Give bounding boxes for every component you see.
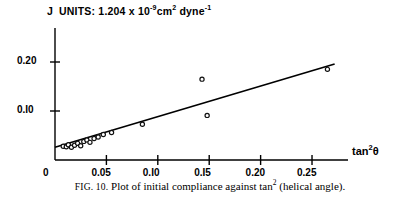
data-point-12 [101, 132, 105, 136]
x-tick-label-2: 0.I5 [194, 167, 211, 178]
origin-label: 0 [43, 167, 49, 178]
figure-container: JUNITS: 1.204 x 10-9cm2 dyne-1 tan2θ FIG… [0, 0, 420, 199]
x-tick-label-4: 0.25 [297, 167, 316, 178]
data-point-17 [325, 67, 329, 71]
data-point-14 [140, 122, 144, 126]
x-axis-label: tan2θ [352, 143, 379, 157]
y-tick-label-1: 0.20 [17, 55, 36, 66]
x-axis-label-base: tan [352, 145, 369, 157]
x-axis-label-theta: θ [373, 145, 379, 157]
data-point-11 [96, 135, 100, 139]
caption-tail: (helical angle). [276, 180, 345, 192]
data-point-15 [200, 77, 204, 81]
data-point-9 [88, 140, 92, 144]
x-tick-label-3: 0.20 [246, 167, 265, 178]
data-point-13 [109, 130, 113, 134]
data-point-6 [79, 144, 83, 148]
data-point-16 [205, 113, 209, 117]
x-tick-label-1: 0.I0 [143, 167, 160, 178]
figure-caption: FIG. 10. Plot of initial compliance agai… [0, 178, 420, 192]
y-tick-label-0: 0.I0 [17, 104, 34, 115]
caption-fig-label: FIG. 10. [75, 182, 109, 192]
caption-text: Plot of initial compliance against tan [108, 180, 272, 192]
x-tick-label-0: 0.05 [91, 167, 110, 178]
